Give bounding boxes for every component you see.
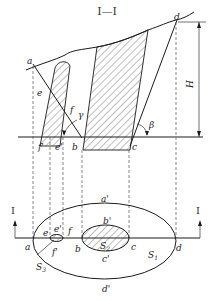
plan-label-b-prime: b' [103,216,111,226]
area-label-S1: S1 [148,250,158,261]
section-title: I—I [97,5,117,18]
label-c: c [132,142,137,152]
plan-label-d: d [176,243,182,253]
section-marker-right: I [196,205,200,216]
section-arrow-left-icon [13,220,17,226]
label-a: a [27,56,32,66]
label-e: e [37,88,42,98]
plan-label-f-prime: f' [51,247,58,257]
label-beta: β [148,120,154,130]
label-e-prime: e' [55,142,63,152]
label-d: d [174,12,180,22]
area-label-S3: S3 [36,262,46,273]
label-gamma: γ [78,110,84,120]
plan-label-c-prime: c' [102,254,110,264]
section-marker-left: I [11,205,15,216]
plan-label-e: e [43,228,48,238]
section-diagram: I—I H a d e f γ β b c f' e' I I [0,0,216,301]
label-b: b [72,142,78,152]
plan-label-b: b [75,244,81,254]
label-f-prime: f' [37,142,44,152]
gamma-arrow-icon [62,130,66,136]
section-arrow-right-icon [198,220,202,226]
beta-arc [137,124,147,135]
h-arrow-down-icon [197,131,201,137]
plan-label-a: a [25,242,30,252]
h-arrow-up-icon [197,22,201,28]
hatched-shaft-small [40,62,70,146]
small-ellipse-ef [50,235,63,242]
label-H: H [185,80,195,89]
plan-label-e-prime: e' [54,224,62,234]
plan-label-a-prime: a' [101,194,109,204]
plan-label-d-prime: d' [102,284,110,294]
plan-label-c: c [131,242,136,252]
beta-arrow-icon [145,131,149,136]
label-f: f [69,105,75,115]
plan-label-f: f [67,226,73,236]
